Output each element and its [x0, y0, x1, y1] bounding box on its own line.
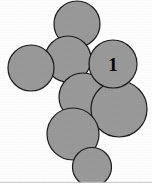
figure-container: 1	[0, 0, 152, 183]
circle-right-lower	[91, 81, 147, 137]
circle-left	[8, 45, 54, 91]
circle-label-1: 1	[108, 54, 118, 75]
labels-layer: 1	[108, 54, 118, 75]
circle-cluster-diagram: 1	[0, 0, 152, 183]
circle-bottom-small	[73, 148, 112, 184]
